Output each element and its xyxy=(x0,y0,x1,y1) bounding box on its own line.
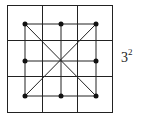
label-exponent: 2 xyxy=(128,47,133,57)
dot xyxy=(59,22,64,27)
dot xyxy=(23,22,28,27)
dot xyxy=(94,94,99,99)
power-label: 32 xyxy=(121,50,133,66)
dot xyxy=(94,22,99,27)
dot xyxy=(23,59,28,64)
label-base: 3 xyxy=(121,50,128,65)
dot xyxy=(59,94,64,99)
dot xyxy=(23,94,28,99)
dot xyxy=(94,59,99,64)
